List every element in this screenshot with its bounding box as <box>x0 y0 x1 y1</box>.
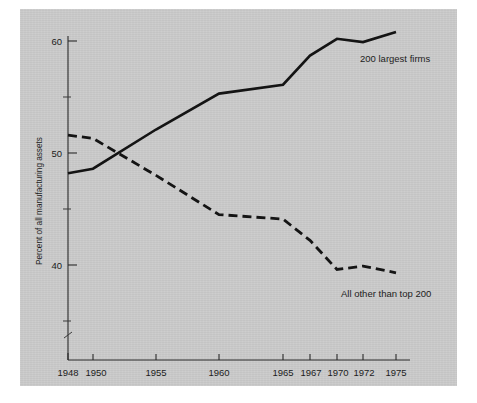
x-tick-label-1955: 1955 <box>145 367 166 378</box>
y-tick-label-40: 40 <box>51 260 62 271</box>
x-tick-marks <box>68 353 396 360</box>
y-tick-labels: 60 50 40 <box>51 36 62 271</box>
x-tick-labels: 1948 1950 1955 1960 1965 1967 1970 1972 … <box>57 367 406 378</box>
x-tick-label-1967: 1967 <box>300 367 321 378</box>
y-axis-title: Percent of all manufacturing assets <box>35 137 44 265</box>
x-tick-label-1950: 1950 <box>85 367 106 378</box>
x-tick-label-1948: 1948 <box>57 367 78 378</box>
y-tick-label-50: 50 <box>51 148 62 159</box>
x-tick-label-1970: 1970 <box>327 367 348 378</box>
figure-page: 60 50 40 Percent of all manufacturing as… <box>0 0 477 403</box>
y-tick-marks <box>63 41 77 338</box>
series-line-all-other-than-top-200 <box>68 135 396 273</box>
x-tick-label-1960: 1960 <box>208 367 229 378</box>
x-tick-label-1975: 1975 <box>385 367 406 378</box>
series-label-all-other-than-top-200: All other than top 200 <box>341 288 431 299</box>
x-tick-label-1965: 1965 <box>272 367 293 378</box>
series-line-200-largest-firms <box>68 32 396 173</box>
x-tick-label-1972: 1972 <box>353 367 374 378</box>
y-tick-label-60: 60 <box>51 36 62 47</box>
line-chart: 60 50 40 Percent of all manufacturing as… <box>0 0 477 403</box>
series-label-200-largest-firms: 200 largest firms <box>360 53 430 64</box>
